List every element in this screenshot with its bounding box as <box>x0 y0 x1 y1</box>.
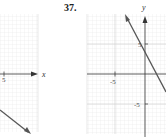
problem-number: 37. <box>64 2 77 13</box>
right-y-tick-label-bottom: -5 <box>134 101 140 109</box>
left-graph: 5 x <box>0 14 46 134</box>
right-y-axis-label: y <box>141 3 146 12</box>
left-x-tick-label: 5 <box>2 76 6 84</box>
figure-canvas: 5 x 37. y -5 5 -5 <box>0 0 166 137</box>
left-x-axis-label: x <box>41 70 46 79</box>
right-x-tick-label: -5 <box>110 78 116 86</box>
right-graph: y -5 5 -5 <box>87 3 166 137</box>
